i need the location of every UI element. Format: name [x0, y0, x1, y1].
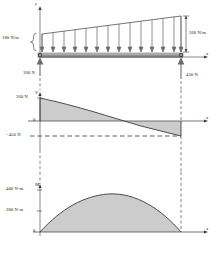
load-left-brace: [31, 33, 37, 51]
moment-tick-label-0: 0: [33, 229, 35, 234]
beam-diagram-figure: y x 180 N/m 360 N/m 360 N 450 N: [0, 0, 214, 255]
moment-y-axis-label: M: [35, 182, 39, 187]
moment-x-axis-arrowhead: [204, 231, 208, 234]
load-arrow-group: [40, 16, 183, 52]
shear-y-axis-arrowhead: [38, 92, 41, 96]
load-left-magnitude-label: 180 N/m: [2, 36, 19, 41]
bending-moment-diagram: M x 400 N·m 200 N·m 0: [0, 172, 214, 255]
shear-x-axis-label: x: [206, 115, 208, 120]
load-x-axis-arrowhead: [204, 56, 208, 59]
shear-x-axis-arrowhead: [204, 120, 208, 123]
shear-tick-label-neg450: −450 N: [6, 133, 21, 138]
moment-tick-label-400: 400 N·m: [6, 187, 23, 192]
moment-diagram-svg: [0, 172, 214, 255]
load-y-axis-label: y: [35, 1, 37, 6]
beam-body: [38, 53, 183, 57]
load-x-axis-label: x: [206, 51, 208, 56]
load-right-magnitude-label: 360 N/m: [189, 31, 206, 36]
load-top-edge: [42, 16, 181, 34]
reaction-arrow-group: [38, 59, 184, 80]
shear-tick-label-360: 360 N: [16, 95, 28, 100]
support-right-pin-center: [180, 54, 182, 56]
shear-force-diagram: V x 360 N 0 −450 N: [0, 90, 214, 172]
load-y-axis-arrowhead: [38, 6, 41, 10]
load-diagram-svg: [0, 0, 214, 90]
shear-tick-label-0: 0: [33, 118, 35, 123]
moment-x-axis-label: x: [206, 226, 208, 231]
moment-tick-label-200: 200 N·m: [6, 208, 23, 213]
reaction-right-label: 450 N: [186, 73, 198, 78]
shear-y-axis-label: V: [35, 90, 38, 95]
distributed-load-diagram: y x 180 N/m 360 N/m 360 N 450 N: [0, 0, 214, 90]
support-left-pin-center: [39, 54, 41, 56]
reaction-left-label: 360 N: [23, 71, 35, 76]
shear-diagram-svg: [0, 90, 214, 172]
